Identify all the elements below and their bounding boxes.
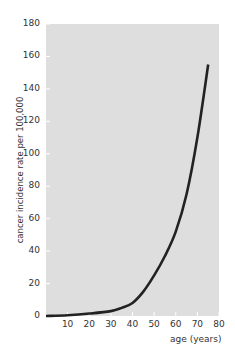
incidence-curve [46,65,208,316]
x-tick-label: 70 [187,319,207,329]
x-tick-label: 50 [144,319,164,329]
x-axis-title: age (years) [170,334,221,344]
y-tick-label: 0 [10,310,40,320]
y-tick-label: 160 [10,50,40,60]
x-tick-label: 80 [209,319,229,329]
x-tick-label: 40 [123,319,143,329]
x-tick-label: 10 [58,319,78,329]
x-tick-label: 20 [79,319,99,329]
y-axis-title: cancer incidence rate per 100,000 [15,90,25,250]
x-tick-label: 60 [166,319,186,329]
x-tick-label: 30 [101,319,121,329]
y-tick-label: 180 [10,18,40,28]
y-tick-label: 20 [10,278,40,288]
